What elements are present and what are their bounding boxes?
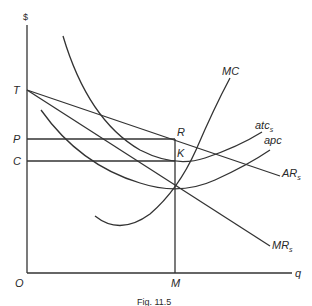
origin-label: O [15,277,24,289]
figure-caption: Fig. 11.5 [137,297,171,306]
ar-label: ARs [281,167,301,181]
atc-curve [63,36,262,162]
ar-curve [27,90,280,176]
x-axis-label: q [295,267,302,279]
economics-diagram: $ q O T P C M R K MC atcs apc ARs MRs Fi… [0,0,312,306]
atc-label: atcs [255,119,274,133]
apc-label: apc [264,134,282,146]
apc-curve [41,110,270,189]
mc-label: MC [222,65,239,77]
level-label-c: C [13,155,21,167]
mr-label: MRs [272,239,293,253]
mr-curve [27,90,270,246]
point-label-k: K [177,147,185,159]
level-label-p: P [13,133,21,145]
quantity-label-m: M [171,277,181,289]
level-label-t: T [13,84,21,96]
y-axis-label: $ [23,12,28,22]
point-label-r: R [177,126,185,138]
